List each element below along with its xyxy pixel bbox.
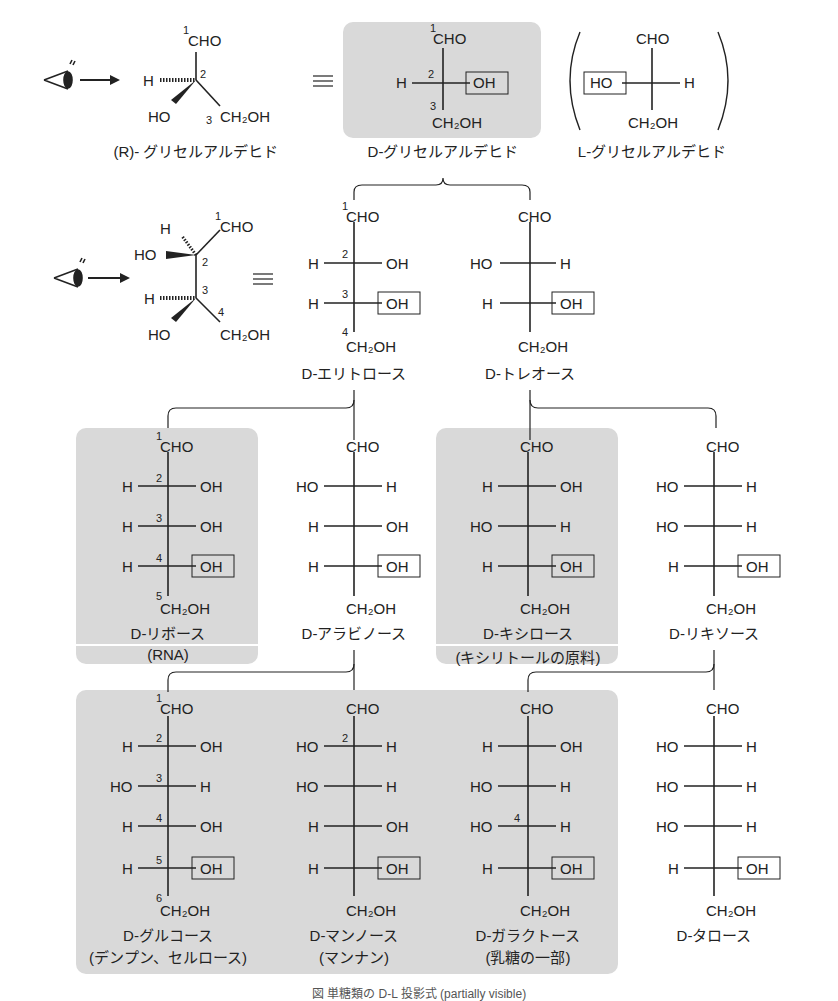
d-galactose-label: D-ガラクトース — [476, 924, 581, 945]
h-label: H — [482, 738, 493, 755]
carbon-number: 1 — [156, 430, 162, 442]
oh-label: OH — [200, 518, 223, 535]
oh-label: OH — [200, 738, 223, 755]
ho-label: HO — [110, 778, 133, 795]
ch2oh-label: CH₂OH — [706, 600, 756, 617]
carbon-number: 2 — [428, 68, 434, 80]
oh-label: OH — [746, 558, 769, 575]
d-threose-label: D-トレオース — [485, 362, 575, 383]
carbon-number: 3 — [202, 284, 208, 296]
carbon-number: 1 — [342, 200, 348, 212]
h-label: H — [122, 478, 133, 495]
carbon-number: 2 — [202, 256, 208, 268]
oh-label: OH — [200, 818, 223, 835]
cho-label: CHO — [346, 438, 379, 455]
arrow-icon-2 — [120, 273, 130, 283]
h-label: H — [396, 74, 407, 91]
h-label: H — [482, 558, 493, 575]
h-label: H — [746, 478, 757, 495]
cho-label: CHO — [520, 438, 553, 455]
oh-label: OH — [200, 558, 223, 575]
ho-label: HO — [470, 518, 493, 535]
h-label: H — [482, 860, 493, 877]
h-label: H — [560, 255, 571, 272]
oh-label: OH — [560, 478, 583, 495]
cho-label: CHO — [706, 700, 739, 717]
d-glyceraldehyde-label: D-グリセルアルデヒド — [368, 140, 519, 161]
oh-label: OH — [386, 860, 409, 877]
d-xylose-label: D-キシロース — [483, 622, 573, 643]
ch2oh-label: CH₂OH — [160, 600, 210, 617]
oh-label: OH — [560, 860, 583, 877]
h-label: H — [122, 518, 133, 535]
cho-label: CHO — [636, 30, 669, 47]
l-glyceraldehyde-label: L-グリセルアルデヒド — [578, 140, 726, 161]
xylose-note: (キシリトールの原料) — [456, 646, 601, 667]
cho-label: CHO — [433, 30, 466, 47]
mannose-note: (マンナン) — [319, 946, 389, 967]
ch2oh-label: CH₂OH — [346, 600, 396, 617]
ho-label: HO — [470, 255, 493, 272]
r-glyceraldehyde-label: (R)- グリセルアルデヒド — [114, 140, 279, 161]
h-label: H — [386, 738, 397, 755]
arrow-icon — [110, 75, 120, 85]
ch2oh-label: CH₂OH — [160, 902, 210, 919]
d-lyxose-label: D-リキソース — [669, 622, 759, 643]
ho-label: HO — [296, 478, 319, 495]
cho-label: CHO — [346, 700, 379, 717]
h-label: H — [560, 818, 571, 835]
oh-label: OH — [386, 558, 409, 575]
carbon-number: 4 — [156, 552, 162, 564]
d-mannose-label: D-マンノース — [310, 924, 399, 945]
cho-label: CHO — [220, 218, 253, 235]
h-label: H — [308, 818, 319, 835]
glucose-note: (デンプン、セルロース) — [89, 946, 247, 967]
oh-label: OH — [560, 558, 583, 575]
carbon-number: 3 — [430, 100, 436, 112]
h-label: H — [122, 860, 133, 877]
d-arabinose-label: D-アラビノース — [302, 622, 407, 643]
oh-label: OH — [560, 295, 583, 312]
cho-label: CHO — [520, 700, 553, 717]
eye-icon — [44, 60, 75, 89]
d-erythrose-label: D-エリトロース — [302, 362, 407, 383]
oh-label: OH — [386, 818, 409, 835]
carbon-number: 2 — [342, 732, 348, 744]
cho-label: CHO — [518, 208, 551, 225]
h-label: H — [746, 778, 757, 795]
h-label: H — [746, 818, 757, 835]
carbon-number: 2 — [200, 68, 206, 80]
carbon-number: 4 — [514, 812, 520, 824]
cho-label: CHO — [160, 700, 193, 717]
h-label: H — [560, 518, 571, 535]
h-label: H — [160, 220, 171, 237]
h-label: H — [308, 558, 319, 575]
h-label: H — [122, 818, 133, 835]
ch2oh-label: CH₂OH — [220, 108, 270, 125]
cho-label: CHO — [346, 208, 379, 225]
h-label: H — [122, 558, 133, 575]
cho-label: CHO — [188, 32, 221, 49]
h-label: H — [746, 518, 757, 535]
ch2oh-label: CH₂OH — [520, 600, 570, 617]
oh-label: OH — [386, 518, 409, 535]
ho-label: HO — [656, 778, 679, 795]
ho-label: HO — [470, 818, 493, 835]
h-label: H — [308, 255, 319, 272]
carbon-number: 3 — [156, 772, 162, 784]
h-label: H — [386, 778, 397, 795]
d-talose-label: D-タロース — [677, 924, 752, 945]
oh-label: OH — [473, 74, 496, 91]
ho-label: HO — [296, 738, 319, 755]
h-label: H — [560, 778, 571, 795]
h-label: H — [746, 738, 757, 755]
h-label: H — [200, 778, 211, 795]
ch2oh-label: CH₂OH — [346, 902, 396, 919]
ho-label: HO — [148, 108, 171, 125]
h-label: H — [668, 558, 679, 575]
d-ribose-label: D-リボース — [131, 622, 206, 643]
ho-label: HO — [148, 326, 171, 343]
ch2oh-label: CH₂OH — [346, 338, 396, 355]
h-label: H — [122, 738, 133, 755]
h-label: H — [482, 478, 493, 495]
